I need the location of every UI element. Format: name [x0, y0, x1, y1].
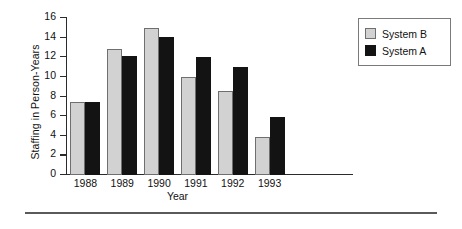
plot-area: 0 2 4 6 8 10 12 14 16 [66, 17, 288, 175]
bar-system-b-1991 [181, 77, 196, 175]
legend-label-system-a: System A [382, 45, 426, 57]
bar-system-b-1989 [107, 49, 122, 175]
bar-system-a-1989 [122, 56, 137, 175]
bar-system-b-1992 [218, 91, 233, 175]
x-tick-label-1993: 1993 [251, 177, 288, 189]
x-axis-title: Year [67, 190, 288, 202]
bar-system-b-1993 [255, 137, 270, 176]
bar-system-b-1988 [70, 102, 85, 175]
bar-group-1989 [104, 17, 141, 175]
y-axis-title: Staffing in Person-Years [29, 17, 41, 187]
legend-swatch-system-b-icon [365, 28, 376, 39]
bar-system-a-1988 [85, 102, 100, 175]
bar-group-1992 [214, 17, 251, 175]
chart-legend: System B System A [358, 18, 451, 66]
y-tick-label-4: 4 [50, 128, 56, 140]
x-tick-label-1991: 1991 [177, 177, 214, 189]
bar-chart-figure: Staffing in Person-Years 0 2 4 6 8 10 12… [0, 0, 462, 229]
x-tick-labels: 198819891990199119921993 [67, 177, 288, 189]
x-tick-label-1988: 1988 [67, 177, 104, 189]
y-tick-label-10: 10 [44, 69, 56, 81]
y-tick-label-16: 16 [44, 10, 56, 22]
x-tick-label-1990: 1990 [141, 177, 178, 189]
y-tick-14: 14 [60, 37, 66, 38]
y-tick-4: 4 [60, 135, 66, 136]
x-tick-label-1992: 1992 [214, 177, 251, 189]
y-tick-label-12: 12 [44, 49, 56, 61]
y-tick-16: 16 [60, 17, 66, 18]
legend-item-system-a: System A [365, 42, 443, 59]
y-tick-6: 6 [60, 115, 66, 116]
legend-item-system-b: System B [365, 25, 443, 42]
bar-system-a-1992 [233, 67, 248, 175]
legend-label-system-b: System B [382, 28, 427, 40]
bar-group-1990 [141, 17, 178, 175]
bar-group-1988 [67, 17, 104, 175]
y-tick-2: 2 [60, 154, 66, 155]
bar-system-a-1993 [270, 117, 285, 175]
y-tick-0: 0 [60, 174, 66, 175]
footer-rule [25, 212, 437, 214]
bar-group-1993 [251, 17, 288, 175]
y-tick-label-2: 2 [50, 147, 56, 159]
y-tick-label-6: 6 [50, 108, 56, 120]
bar-groups [67, 17, 288, 175]
y-tick-10: 10 [60, 76, 66, 77]
bar-system-b-1990 [144, 28, 159, 175]
legend-swatch-system-a-icon [365, 45, 376, 56]
y-tick-12: 12 [60, 56, 66, 57]
y-tick-label-0: 0 [50, 167, 56, 179]
y-tick-label-8: 8 [50, 89, 56, 101]
bar-group-1991 [177, 17, 214, 175]
y-tick-8: 8 [60, 96, 66, 97]
y-tick-label-14: 14 [44, 30, 56, 42]
x-tick-label-1989: 1989 [104, 177, 141, 189]
bar-system-a-1990 [159, 37, 174, 175]
bar-system-a-1991 [196, 57, 211, 176]
